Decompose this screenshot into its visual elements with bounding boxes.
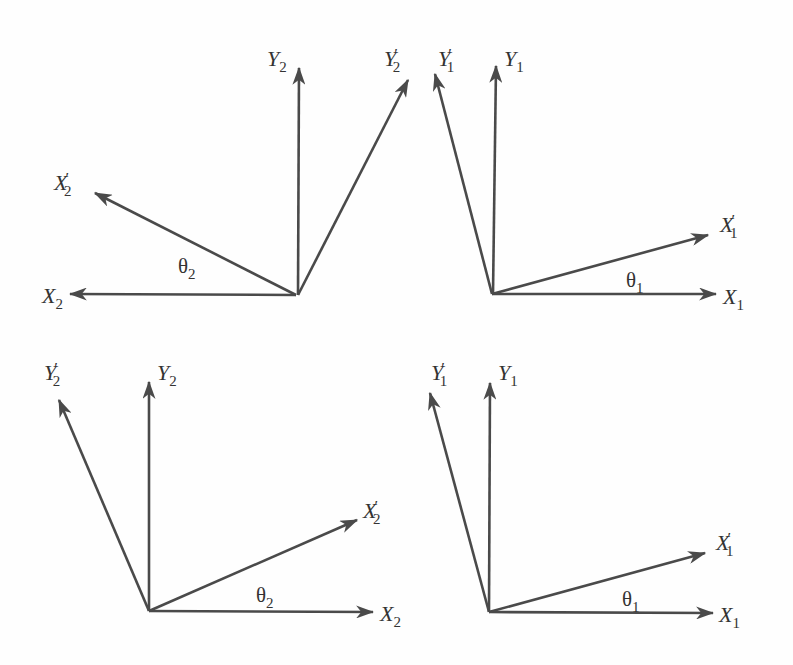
label-x2-prime: X′2 (54, 172, 71, 194)
axis-x1-prime-arrow (492, 235, 708, 294)
label-y1: Y1 (504, 48, 524, 70)
label-y2: Y2 (157, 362, 177, 384)
axis-x1-prime-arrow (489, 553, 705, 612)
label-y2-prime: Y′2 (44, 362, 60, 384)
label-y2: Y2 (267, 48, 287, 70)
axis-y1-prime-arrow (435, 74, 492, 294)
axis-y2-prime-arrow (298, 80, 408, 295)
angle-theta2: θ2 (256, 585, 274, 606)
label-y1-prime: Y′1 (431, 362, 447, 384)
angle-theta2: θ2 (178, 256, 196, 277)
angle-theta1: θ1 (622, 589, 640, 610)
panel-top-left (70, 68, 408, 295)
panel-bottom-right (430, 383, 713, 613)
axis-y1-prime-arrow (430, 393, 489, 612)
angle-theta1: θ1 (626, 270, 644, 291)
axis-y1-arrow (493, 66, 496, 294)
axis-x2-arrow (149, 611, 373, 612)
label-x2-prime: X′2 (363, 500, 380, 522)
label-y2-prime: Y′2 (384, 48, 400, 70)
label-x2: X2 (380, 603, 401, 625)
label-x1: X1 (719, 604, 740, 626)
label-x1-prime: X′1 (720, 214, 737, 236)
axis-y2-prime-arrow (59, 400, 149, 611)
axis-x2-prime-arrow (149, 520, 357, 611)
label-x1: X1 (723, 286, 744, 308)
label-y1: Y1 (498, 362, 518, 384)
axes-drawing (0, 0, 793, 665)
axis-x1-arrow (489, 612, 713, 613)
label-x1-prime: X′1 (716, 532, 733, 554)
diagram-canvas: Y2 Y′2 X′2 X2 θ2 Y′1 Y1 X′1 X1 θ1 Y′2 Y2… (0, 0, 793, 665)
axis-y2-arrow (298, 68, 299, 295)
label-x2: X2 (42, 285, 63, 307)
axis-x2-arrow (70, 294, 296, 295)
label-y1-prime: Y′1 (438, 48, 454, 70)
axis-y1-arrow (489, 383, 490, 612)
panel-top-right (435, 66, 716, 294)
panel-bottom-left (59, 382, 373, 612)
